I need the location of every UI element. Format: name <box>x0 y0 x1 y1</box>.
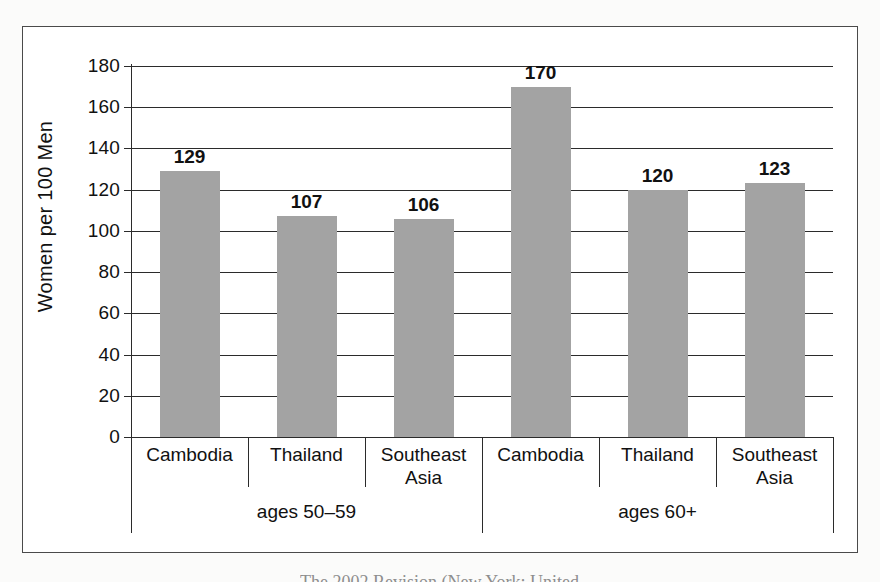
gridline <box>131 231 833 232</box>
y-axis-tick <box>124 355 131 356</box>
bar <box>160 171 220 437</box>
y-axis-tick-label: 160 <box>88 97 120 116</box>
y-axis-tick <box>124 313 131 314</box>
gridline <box>131 148 833 149</box>
y-axis-tick <box>124 66 131 67</box>
y-axis-tick <box>124 396 131 397</box>
y-axis-tick-label: 80 <box>98 262 120 281</box>
y-axis-tick <box>124 272 131 273</box>
category-separator <box>599 437 600 487</box>
bar <box>394 219 454 437</box>
category-label: Southeast Asia <box>716 437 833 487</box>
y-axis-tick-label: 140 <box>88 138 120 157</box>
gridline <box>131 313 833 314</box>
category-axis: CambodiaThailandSoutheast AsiaCambodiaTh… <box>131 437 833 537</box>
y-axis-tick <box>124 190 131 191</box>
gridline <box>131 190 833 191</box>
category-label: Southeast Asia <box>365 437 482 487</box>
gridline <box>131 355 833 356</box>
gridline <box>131 66 833 67</box>
group-separator <box>833 437 834 533</box>
bar <box>745 183 805 437</box>
bar <box>628 190 688 437</box>
bar-value-label: 170 <box>501 63 581 82</box>
category-label: Thailand <box>248 437 365 487</box>
y-axis-tick <box>124 107 131 108</box>
plot-area: 129107106170120123 <box>131 66 833 437</box>
y-axis-tick <box>124 148 131 149</box>
category-label: Cambodia <box>482 437 599 487</box>
bar <box>277 216 337 437</box>
category-separator <box>248 437 249 487</box>
group-label: ages 50–59 <box>131 487 482 537</box>
bar-value-label: 129 <box>150 147 230 166</box>
bar-value-label: 107 <box>267 192 347 211</box>
y-axis-tick-label: 40 <box>98 345 120 364</box>
y-axis-tick-label: 0 <box>109 427 120 446</box>
category-label: Thailand <box>599 437 716 487</box>
bar-value-label: 120 <box>618 166 698 185</box>
y-axis-tick <box>124 437 131 438</box>
y-axis-tick-label: 60 <box>98 303 120 322</box>
bar <box>511 87 571 437</box>
gridline <box>131 396 833 397</box>
y-axis-tick-label: 120 <box>88 180 120 199</box>
figure-caption-clipped: The 2002 Revision (New York: United <box>300 568 860 582</box>
category-separator <box>365 437 366 487</box>
y-axis-tick-labels: 180160140120100806040200 <box>52 66 120 437</box>
y-axis-tick <box>124 231 131 232</box>
category-label: Cambodia <box>131 437 248 487</box>
y-axis-tick-label: 100 <box>88 221 120 240</box>
y-axis-tick-label: 180 <box>88 56 120 75</box>
bar-chart: Women per 100 Men 1801601401201008060402… <box>0 0 880 582</box>
bar-value-label: 106 <box>384 195 464 214</box>
gridline <box>131 107 833 108</box>
group-label: ages 60+ <box>482 487 833 537</box>
category-separator <box>716 437 717 487</box>
gridline <box>131 272 833 273</box>
bar-value-label: 123 <box>735 159 815 178</box>
y-axis-tick-label: 20 <box>98 386 120 405</box>
